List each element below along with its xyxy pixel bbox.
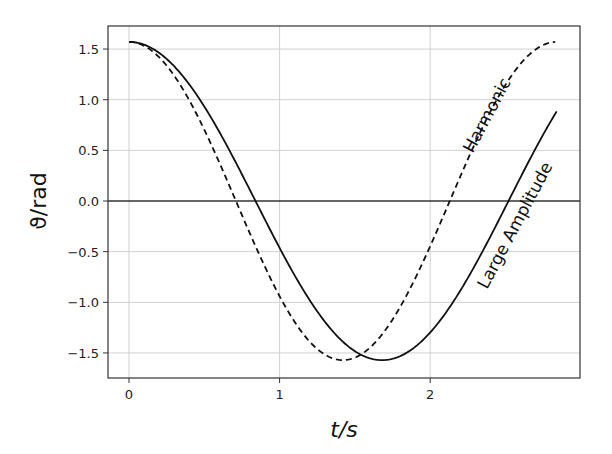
x-tick-label: 2 (426, 387, 434, 402)
x-axis-label: t/s (330, 417, 358, 442)
curve-labels: HarmonicLarge Amplitude (459, 74, 557, 291)
harmonic-label: Harmonic (459, 74, 515, 156)
y-tick-label: 0.0 (78, 194, 99, 209)
x-tick-label: 1 (275, 387, 283, 402)
y-tick-label: 1.5 (78, 42, 99, 57)
y-tick-label: −1.0 (67, 295, 99, 310)
y-tick-label: 1.0 (78, 93, 99, 108)
y-tick-label: 0.5 (78, 143, 99, 158)
x-tick-label: 0 (125, 387, 133, 402)
y-axis-label: ϑ/rad (26, 172, 51, 230)
chart: 0121.51.00.50.0−0.5−1.0−1.5 HarmonicLarg… (0, 0, 612, 454)
large-amplitude-label: Large Amplitude (473, 159, 557, 292)
ticks: 0121.51.00.50.0−0.5−1.0−1.5 (67, 42, 434, 402)
y-tick-label: −1.5 (67, 346, 99, 361)
y-tick-label: −0.5 (67, 245, 99, 260)
